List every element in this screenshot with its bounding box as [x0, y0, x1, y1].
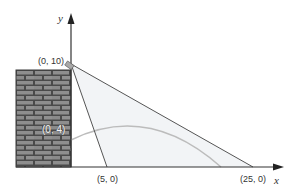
x-axis-label: x	[274, 174, 279, 186]
y-axis-arrow-icon	[68, 13, 75, 24]
point-label-lamp: (0, 10)	[38, 56, 64, 66]
brick-wall	[16, 70, 71, 167]
point-label-near: (5, 0)	[97, 174, 118, 184]
y-axis-label: y	[58, 12, 63, 24]
wall-edge-mark	[70, 148, 72, 151]
diagram-canvas	[0, 0, 291, 195]
x-axis-arrow-icon	[273, 164, 284, 171]
point-label-wall: (0, 4)	[42, 124, 65, 135]
point-label-far: (25, 0)	[240, 174, 266, 184]
